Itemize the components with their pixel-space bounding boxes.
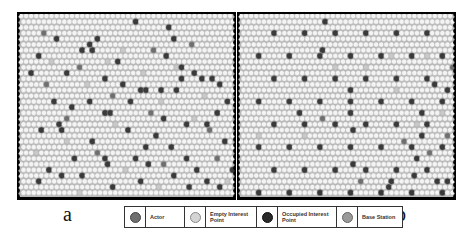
empty-interest-point-legend-icon <box>185 207 206 227</box>
occupied-interest-point-legend-label: Occupied Interest Point <box>278 207 337 227</box>
base-station-legend-label: Base Station <box>358 207 402 227</box>
base-station-legend-icon <box>337 207 358 227</box>
hex-grid-b <box>237 12 456 200</box>
panel-label-a: a <box>63 203 72 226</box>
hex-grid-a <box>17 12 236 200</box>
panel-b-hex-grid <box>237 12 456 200</box>
occupied-interest-point-legend-icon <box>257 207 278 227</box>
actor-legend-label: Actor <box>146 207 185 227</box>
legend: Actor Empty Interest Point Occupied Inte… <box>124 206 403 228</box>
actor-legend-icon <box>125 207 146 227</box>
empty-interest-point-legend-label: Empty Interest Point <box>206 207 257 227</box>
panel-a-hex-grid <box>17 12 236 200</box>
